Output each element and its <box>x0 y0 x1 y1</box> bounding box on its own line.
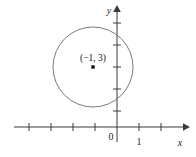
x-axis-arrow-icon <box>183 123 190 131</box>
graph-canvas <box>0 0 196 157</box>
center-point-marker <box>91 65 94 68</box>
y-axis-arrow-icon <box>113 5 121 12</box>
coordinate-plane-figure: x y 0 1 (−1, 3) <box>0 0 196 157</box>
